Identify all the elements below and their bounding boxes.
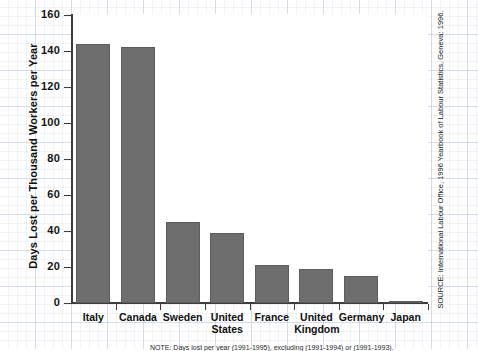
bar-canada: [121, 47, 155, 303]
y-tick-100: [64, 123, 71, 124]
x-tick-2: [160, 304, 161, 310]
y-tick-label-100: 100: [20, 116, 60, 128]
y-axis-line: [71, 14, 73, 304]
x-tick-7: [383, 304, 384, 310]
bottom-note: NOTE: Days lost per year (1991-1995), ex…: [150, 344, 394, 351]
x-tick-4: [250, 304, 251, 310]
category-label-united-states: United States: [205, 311, 250, 335]
y-tick-label-120: 120: [20, 80, 60, 92]
y-tick-120: [64, 87, 71, 88]
y-tick-label-60: 60: [20, 188, 60, 200]
y-tick-label-40: 40: [20, 224, 60, 236]
x-tick-3: [205, 304, 206, 310]
bar-japan: [389, 301, 423, 303]
bar-italy: [76, 44, 110, 303]
x-tick-6: [339, 304, 340, 310]
category-label-germany: Germany: [339, 311, 384, 323]
y-tick-140: [64, 51, 71, 52]
category-label-japan: Japan: [383, 311, 428, 323]
category-label-canada: Canada: [116, 311, 161, 323]
y-tick-160: [64, 15, 71, 16]
y-tick-label-0: 0: [20, 296, 60, 308]
bar-sweden: [166, 222, 200, 303]
bar-france: [255, 265, 289, 303]
y-tick-80: [64, 159, 71, 160]
category-label-sweden: Sweden: [160, 311, 205, 323]
y-tick-label-20: 20: [20, 260, 60, 272]
category-label-france: France: [250, 311, 295, 323]
source-credit: SOURCE: International Labour Office, 199…: [436, 10, 445, 310]
bar-germany: [344, 276, 378, 303]
x-tick-1: [116, 304, 117, 310]
x-tick-5: [294, 304, 295, 310]
category-label-united-kingdom: United Kingdom: [294, 311, 339, 335]
bar-united-kingdom: [299, 269, 333, 303]
y-tick-20: [64, 267, 71, 268]
bar-united-states: [210, 233, 244, 303]
y-tick-60: [64, 195, 71, 196]
y-tick-label-140: 140: [20, 44, 60, 56]
x-tick-end: [428, 304, 429, 310]
y-tick-40: [64, 231, 71, 232]
category-label-italy: Italy: [71, 311, 116, 323]
y-tick-0: [64, 303, 71, 304]
y-tick-label-160: 160: [20, 8, 60, 20]
y-tick-label-80: 80: [20, 152, 60, 164]
